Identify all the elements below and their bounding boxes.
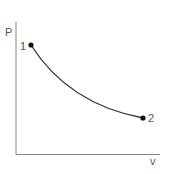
y-axis-label: P — [5, 26, 12, 38]
x-axis-label: v — [150, 155, 156, 167]
point-1-label: 1 — [20, 40, 26, 52]
pv-diagram: P 1 2 v — [0, 0, 170, 174]
state-point-2 — [140, 115, 145, 120]
state-point-1 — [28, 42, 33, 47]
process-curve — [31, 45, 143, 118]
point-2-label: 2 — [148, 112, 154, 124]
